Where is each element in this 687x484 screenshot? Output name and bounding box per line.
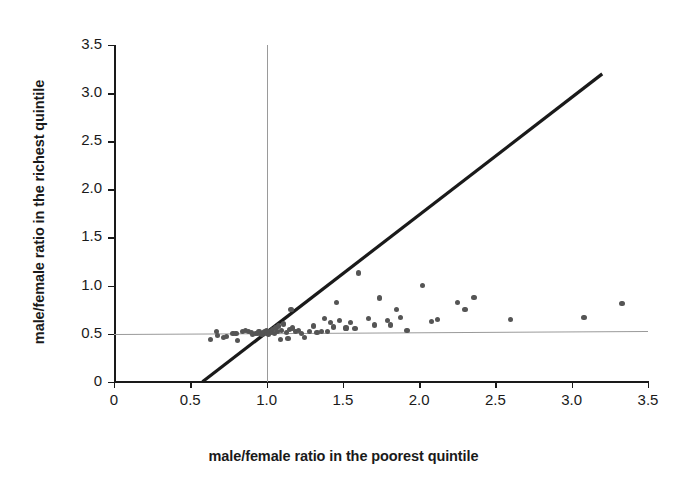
data-point bbox=[435, 317, 440, 322]
data-point bbox=[281, 321, 286, 326]
data-point bbox=[348, 320, 353, 325]
data-point bbox=[394, 307, 399, 312]
data-point bbox=[285, 336, 290, 341]
scatter-plot-figure: male/female ratio in the richest quintil… bbox=[0, 0, 687, 484]
data-point bbox=[233, 331, 238, 336]
data-point bbox=[429, 319, 434, 324]
data-point bbox=[404, 328, 409, 333]
identity-line bbox=[0, 0, 687, 484]
data-point bbox=[462, 307, 467, 312]
data-point bbox=[388, 322, 393, 327]
data-point bbox=[288, 307, 293, 312]
data-point bbox=[471, 295, 476, 300]
data-point bbox=[278, 337, 283, 342]
data-point bbox=[356, 270, 361, 275]
data-point bbox=[331, 324, 336, 329]
data-point bbox=[420, 283, 425, 288]
data-point bbox=[343, 325, 348, 330]
data-point bbox=[581, 315, 586, 320]
data-point bbox=[322, 316, 327, 321]
data-point bbox=[208, 337, 213, 342]
data-point bbox=[377, 295, 382, 300]
